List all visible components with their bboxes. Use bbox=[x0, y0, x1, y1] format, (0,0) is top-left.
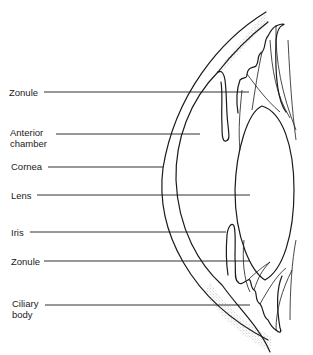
label-ciliary-body: Ciliary body bbox=[12, 298, 38, 320]
zonule-fibers-bottom bbox=[248, 262, 292, 330]
label-zonule-bottom: Zonule bbox=[11, 256, 40, 267]
eye-anterior-segment-diagram bbox=[0, 0, 313, 355]
sclera-bottom bbox=[204, 282, 272, 352]
label-lens: Lens bbox=[11, 190, 32, 201]
leader-lines bbox=[30, 92, 250, 305]
label-zonule-top: Zonule bbox=[9, 87, 38, 98]
lens-outline bbox=[235, 106, 294, 280]
iris-bottom bbox=[226, 224, 238, 282]
ciliary-processes-top bbox=[237, 26, 276, 113]
label-cornea: Cornea bbox=[11, 161, 42, 172]
label-anterior-chamber: Anterior chamber bbox=[10, 127, 47, 149]
zonule-fibers-top bbox=[247, 26, 296, 130]
label-iris: Iris bbox=[11, 227, 24, 238]
iris-top bbox=[218, 71, 229, 141]
